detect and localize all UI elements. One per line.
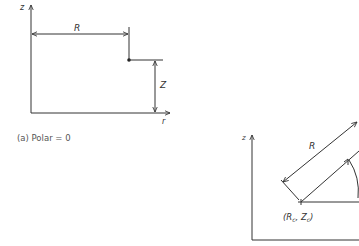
R-dimension-label: R — [74, 23, 80, 33]
angle-arc — [349, 160, 358, 198]
R-dimension-arrow-b — [283, 122, 357, 182]
R-extension-line — [281, 180, 299, 200]
z-axis-label-a: z — [19, 3, 25, 12]
r-axis-label-a: r — [162, 117, 166, 126]
z-axis-label-b: z — [241, 134, 246, 142]
caption-a: (a) Polar = 0 — [17, 133, 71, 143]
R-dimension-label-b: R — [309, 141, 315, 151]
diagram-a: z r R Z (a) Polar = 0 — [17, 3, 170, 143]
radial-line — [301, 151, 359, 202]
center-label: (Rc, Zc) — [283, 212, 313, 223]
diagram-b: z R (Rc, Zc) — [241, 122, 359, 240]
Z-dimension-label: Z — [159, 80, 167, 90]
diagram-canvas: z r R Z (a) Polar = 0 z R (Rc, Zc) — [0, 0, 359, 246]
